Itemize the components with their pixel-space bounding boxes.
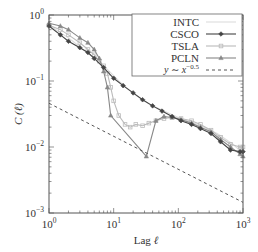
- x-tick-labels: 100101102103: [42, 216, 251, 230]
- correlation-decay-chart: 100101102103 10010−110−210−3 Lag ℓ C (ℓ)…: [0, 0, 258, 252]
- x-axis-label: Lag ℓ: [134, 234, 159, 246]
- y-tick-label: 10−1: [25, 73, 44, 87]
- series-y-x-0-5: [49, 103, 243, 202]
- y-tick-label: 100: [29, 7, 44, 21]
- legend: INTC CSCO TSLA PCLN y ∼ x−0.5: [132, 14, 242, 76]
- x-tick-label: 102: [171, 216, 186, 230]
- legend-label-intc: INTC: [173, 16, 199, 28]
- x-tick-label: 103: [236, 216, 251, 230]
- x-tick-label: 100: [42, 216, 57, 230]
- y-axis-label: C (ℓ): [12, 103, 25, 125]
- x-tick-label: 101: [106, 216, 121, 230]
- legend-label-csco: CSCO: [170, 28, 199, 40]
- y-tick-labels: 10010−110−210−3: [25, 7, 44, 219]
- legend-label-tsla: TSLA: [172, 40, 200, 52]
- y-tick-label: 10−2: [25, 139, 44, 153]
- y-tick-label: 10−3: [25, 205, 44, 219]
